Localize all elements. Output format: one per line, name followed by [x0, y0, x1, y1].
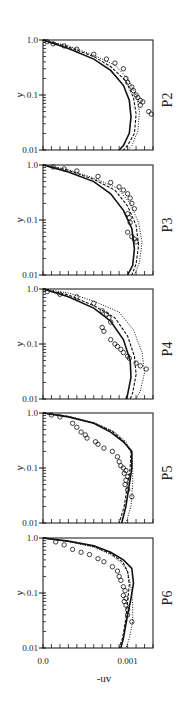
solid-curve — [43, 165, 134, 275]
plot-frame — [43, 289, 153, 399]
panel-label: P4 — [160, 342, 175, 357]
solid-curve — [43, 538, 134, 648]
dotted-curve — [43, 538, 133, 648]
panel-label: P3 — [160, 218, 175, 233]
data-point — [96, 442, 100, 446]
x-tick-label: 0.001 — [117, 656, 137, 666]
data-point — [147, 109, 151, 113]
data-point — [115, 569, 119, 573]
panel-label: P5 — [160, 466, 175, 481]
dashed-curve — [43, 413, 131, 523]
data-point — [108, 180, 112, 184]
y-axis-label: y — [13, 92, 25, 98]
data-point — [70, 421, 74, 425]
data-point — [110, 449, 114, 453]
data-point — [92, 301, 96, 305]
data-point — [138, 364, 142, 368]
data-point — [75, 425, 79, 429]
y-tick-label: 1.0 — [27, 160, 39, 170]
data-point — [138, 103, 142, 107]
y-tick-label: 0.1 — [27, 463, 38, 473]
data-point — [102, 329, 106, 333]
data-point — [144, 367, 148, 371]
data-point — [125, 230, 129, 234]
y-tick-label: 0.1 — [27, 339, 38, 349]
x-axis-label: -uv — [97, 672, 112, 684]
data-point — [102, 446, 106, 450]
y-axis-label: y — [13, 217, 25, 223]
data-point — [121, 188, 125, 192]
data-point — [75, 169, 79, 173]
data-point — [108, 337, 112, 341]
y-tick-label: 0.01 — [22, 518, 38, 528]
y-axis-label: y — [13, 341, 25, 347]
y-axis-label: y — [13, 590, 25, 596]
data-point — [70, 547, 74, 551]
data-point — [92, 52, 96, 56]
data-point — [119, 578, 123, 582]
data-point — [130, 620, 134, 624]
data-point — [115, 455, 119, 459]
plot-frame — [43, 413, 153, 523]
y-tick-label: 0.01 — [22, 145, 38, 155]
panel-label: P2 — [160, 93, 175, 108]
data-point — [75, 295, 79, 299]
data-point — [104, 57, 108, 61]
data-point — [127, 216, 131, 220]
data-point — [102, 560, 106, 564]
data-point — [62, 543, 66, 547]
y-tick-label: 0.1 — [27, 215, 38, 225]
data-point — [124, 603, 128, 607]
y-tick-label: 0.1 — [27, 90, 38, 100]
dotted-curve — [43, 40, 140, 150]
data-point — [113, 342, 117, 346]
data-point — [96, 557, 100, 561]
y-tick-label: 1.0 — [27, 533, 39, 543]
panel-p6: 0.010.11.0yP6 — [13, 533, 175, 653]
y-axis-label: y — [13, 465, 25, 471]
plot-frame — [43, 165, 153, 275]
panel-p4: 0.010.11.0yP4 — [13, 284, 175, 404]
data-point — [87, 552, 91, 556]
y-tick-label: 1.0 — [27, 35, 39, 45]
data-point — [93, 440, 97, 444]
y-tick-label: 0.01 — [22, 643, 38, 653]
solid-curve — [43, 40, 131, 150]
data-point — [113, 61, 117, 65]
data-point — [117, 185, 121, 189]
data-point — [132, 207, 136, 211]
panel-p2: 0.010.11.0yP2 — [13, 35, 175, 155]
y-tick-label: 0.01 — [22, 270, 38, 280]
dotted-curve — [43, 413, 133, 523]
stacked-profile-chart: 0.010.11.0yP20.010.11.0yP30.010.11.0yP40… — [0, 0, 185, 716]
data-point — [123, 482, 127, 486]
y-tick-label: 1.0 — [27, 408, 39, 418]
data-point — [79, 550, 83, 554]
data-point — [124, 478, 128, 482]
data-point — [121, 67, 125, 71]
data-point — [110, 565, 114, 569]
data-point — [125, 192, 129, 196]
dashed-curve — [43, 165, 139, 275]
solid-curve — [43, 413, 132, 523]
data-point — [96, 174, 100, 178]
data-point — [121, 593, 125, 597]
y-tick-label: 0.1 — [27, 588, 38, 598]
dashed-curve — [43, 538, 129, 648]
data-point — [121, 350, 125, 354]
panel-label: P6 — [160, 591, 175, 606]
panel-p3: 0.010.11.0yP3 — [13, 160, 175, 280]
data-point — [128, 196, 132, 200]
data-point — [123, 589, 127, 593]
y-tick-label: 0.01 — [22, 394, 38, 404]
y-tick-label: 1.0 — [27, 284, 39, 294]
plot-frame — [43, 538, 153, 648]
panel-p5: 0.010.11.0yP5 — [13, 408, 175, 528]
data-point — [79, 430, 83, 434]
x-tick-label: 0.0 — [37, 656, 49, 666]
